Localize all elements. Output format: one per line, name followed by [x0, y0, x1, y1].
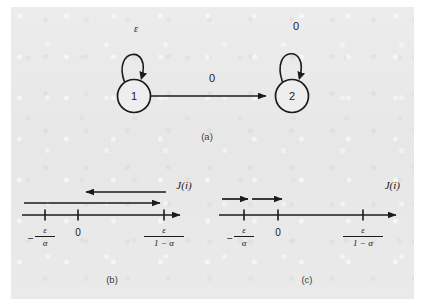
panel-c-axis-title: J(i) [385, 179, 401, 192]
self-loop-state-2 [280, 54, 301, 82]
fraction-bar [144, 236, 184, 237]
minus-sign: − [227, 234, 233, 244]
self-loop-state-1-label: ε [134, 23, 138, 34]
fraction-numerator: ε [144, 226, 184, 236]
panel-c-label-neg-eps-over-alpha: − ε α [234, 226, 254, 248]
fraction-denominator: α [35, 238, 55, 248]
caption-c: (c) [301, 274, 312, 285]
caption-b: (b) [106, 274, 118, 285]
panel-b-label-neg-eps-over-alpha: − ε α [35, 226, 55, 248]
state-2-label: 2 [289, 90, 295, 102]
caption-a: (a) [201, 131, 213, 142]
panel-c-label-eps-over-one-minus-alpha: ε 1 − α [343, 226, 383, 248]
minus-sign: − [28, 234, 34, 244]
transition-1-to-2-label: 0 [209, 72, 215, 84]
self-loop-state-1 [122, 54, 143, 82]
state-1-label: 1 [131, 90, 137, 102]
panel-a: ε 0 0 1 2 (a) [118, 20, 309, 142]
fraction-numerator: ε [343, 226, 383, 236]
panel-b-tick-zero-label: 0 [75, 227, 81, 238]
fraction-bar [343, 236, 383, 237]
figure-container: ε 0 0 1 2 (a) 0 [0, 0, 425, 308]
panel-b-label-eps-over-one-minus-alpha: ε 1 − α [144, 226, 184, 248]
fraction-bar [234, 236, 254, 237]
fraction-numerator: ε [234, 226, 254, 236]
self-loop-state-2-label: 0 [293, 20, 299, 32]
figure-vector-layer: ε 0 0 1 2 (a) 0 [0, 0, 425, 308]
fraction-denominator: 1 − α [144, 238, 184, 248]
panel-c-tick-zero-label: 0 [275, 227, 281, 238]
fraction-denominator: 1 − α [343, 238, 383, 248]
panel-b-axis-title: J(i) [176, 179, 192, 192]
fraction-bar [35, 236, 55, 237]
fraction-denominator: α [234, 238, 254, 248]
fraction-numerator: ε [35, 226, 55, 236]
